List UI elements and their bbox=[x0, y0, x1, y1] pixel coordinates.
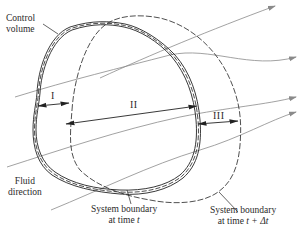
region-3-label: III bbox=[213, 110, 225, 121]
control-volume-label: Control volume bbox=[6, 13, 35, 34]
control-volume-leader bbox=[43, 24, 58, 34]
system-boundary-t-label: System boundary at time t bbox=[91, 204, 157, 225]
streamline-2 bbox=[15, 53, 296, 97]
region-2-label: II bbox=[130, 99, 138, 110]
streamline-3 bbox=[7, 97, 296, 167]
streamline-4 bbox=[51, 112, 296, 210]
fluid-direction-label: Fluid direction bbox=[8, 176, 42, 197]
system-boundary-t-plus-dt-label: System boundary at time t + Δt bbox=[210, 205, 276, 226]
region-dimension-arrows bbox=[38, 103, 238, 124]
region-1-arrow bbox=[38, 103, 69, 106]
control-volume-boundary bbox=[33, 22, 200, 195]
system-boundary-t bbox=[35, 23, 199, 192]
streamlines bbox=[7, 6, 296, 210]
diagram-canvas: I II III Control volume Fluid direction … bbox=[0, 0, 302, 231]
diagram-svg bbox=[0, 0, 302, 231]
leader-lines bbox=[43, 24, 238, 212]
region-3-arrow bbox=[198, 121, 238, 124]
region-1-label: I bbox=[51, 90, 55, 101]
